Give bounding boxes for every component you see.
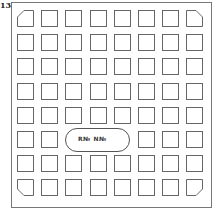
- pad: [162, 155, 179, 172]
- pad: [90, 34, 107, 51]
- pad: [65, 179, 82, 196]
- pad: [138, 83, 155, 100]
- pad: [41, 155, 58, 172]
- pad: [90, 107, 107, 124]
- pad: [17, 34, 34, 51]
- pad: [41, 10, 58, 27]
- pad: [41, 179, 58, 196]
- pad: [138, 131, 155, 148]
- pad: [162, 179, 179, 196]
- pad: [162, 58, 179, 75]
- pad: [186, 107, 203, 124]
- pad: [114, 83, 131, 100]
- pad: [41, 58, 58, 75]
- chamfered-pad-br: [186, 179, 203, 196]
- figure-label: 13: [0, 0, 11, 10]
- label-pill: R№ N№: [65, 128, 130, 152]
- pad: [114, 58, 131, 75]
- pad: [138, 58, 155, 75]
- pad: [41, 107, 58, 124]
- chamfered-pad-tl: [17, 10, 34, 27]
- chamfered-pad-bl: [17, 179, 34, 196]
- package-outline: [11, 2, 212, 208]
- pad: [41, 83, 58, 100]
- pad: [90, 83, 107, 100]
- pad: [162, 131, 179, 148]
- pad: [41, 34, 58, 51]
- pad: [17, 83, 34, 100]
- pad: [65, 155, 82, 172]
- pad: [90, 155, 107, 172]
- pill-text: R№ N№: [78, 135, 107, 142]
- pad: [17, 155, 34, 172]
- pad: [17, 107, 34, 124]
- pad: [186, 131, 203, 148]
- chamfered-pad-tr: [186, 10, 203, 27]
- pad: [114, 34, 131, 51]
- pad: [65, 107, 82, 124]
- pad: [186, 58, 203, 75]
- pad: [17, 131, 34, 148]
- pad: [186, 155, 203, 172]
- pad: [186, 83, 203, 100]
- pad: [90, 179, 107, 196]
- pad: [162, 34, 179, 51]
- pad: [65, 10, 82, 27]
- pad: [114, 10, 131, 27]
- pad: [186, 34, 203, 51]
- pad: [65, 34, 82, 51]
- pad: [90, 58, 107, 75]
- pad: [114, 155, 131, 172]
- pad: [114, 179, 131, 196]
- pad: [138, 155, 155, 172]
- pad: [65, 83, 82, 100]
- pad: [162, 83, 179, 100]
- pad: [138, 10, 155, 27]
- pad: [138, 179, 155, 196]
- pad: [162, 107, 179, 124]
- pad: [162, 10, 179, 27]
- pad: [114, 107, 131, 124]
- pad: [138, 107, 155, 124]
- pad: [90, 10, 107, 27]
- pad: [65, 58, 82, 75]
- pad: [138, 34, 155, 51]
- pad: [41, 131, 58, 148]
- pad: [17, 58, 34, 75]
